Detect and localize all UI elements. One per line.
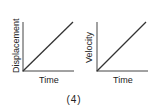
displacement-time-chart: Displacement Time bbox=[0, 0, 74, 90]
data-line bbox=[23, 22, 73, 71]
velocity-time-chart: Velocity Time bbox=[74, 0, 148, 90]
figure-caption: (4) bbox=[0, 94, 148, 105]
data-line bbox=[97, 22, 146, 71]
x-axis-label: Time bbox=[39, 75, 59, 85]
y-axis-label: Velocity bbox=[84, 32, 94, 63]
x-axis-label: Time bbox=[113, 75, 133, 85]
y-axis-label: Displacement bbox=[11, 18, 21, 73]
